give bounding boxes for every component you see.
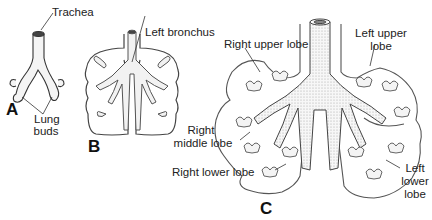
label-left-upper-lobe-line1: Left upper [352, 27, 410, 39]
label-lung-buds-line2: buds [31, 125, 61, 137]
label-left-bronchus: Left bronchus [145, 26, 215, 38]
panel-label-a: A [6, 100, 18, 120]
label-left-lower-lobe-line2: lower [398, 175, 432, 187]
panel-label-b: B [88, 137, 100, 157]
panel-b-bronchial-tree [94, 30, 170, 130]
label-lung-buds-line1: Lung [34, 113, 58, 125]
label-right-middle-lobe-line2: middle lobe [170, 137, 236, 149]
label-right-lower-lobe: Right lower lobe [172, 166, 254, 178]
label-right-middle-lobe-line1: Right [170, 124, 232, 136]
label-left-lower-lobe-line1: Left [398, 162, 432, 174]
label-right-upper-lobe: Right upper lobe [224, 38, 308, 50]
label-left-lower-lobe-line3: lobe [398, 188, 432, 200]
panel-a-lung-buds [10, 32, 64, 103]
label-trachea: Trachea [52, 6, 94, 18]
panel-label-c: C [260, 199, 272, 219]
label-left-upper-lobe-line2: lobe [352, 40, 410, 52]
